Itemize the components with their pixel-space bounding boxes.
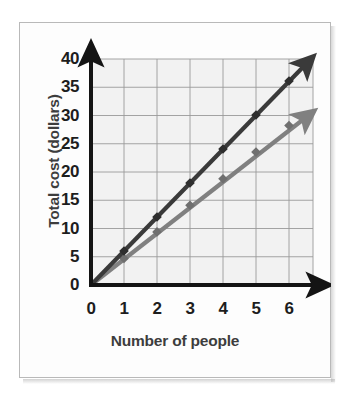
scanned-chart-page: Total cost (dollars) Number of people 40… [0,0,353,405]
page-shadow-bottom [23,379,335,384]
page-shadow-right [331,26,336,382]
chart-svg [19,22,331,334]
x-axis-title: Number of people [19,332,331,350]
chart-figure: Total cost (dollars) Number of people 40… [19,22,331,378]
plot-area: 40 35 30 25 20 15 10 5 0 0 1 2 3 4 5 6 A… [19,22,331,334]
